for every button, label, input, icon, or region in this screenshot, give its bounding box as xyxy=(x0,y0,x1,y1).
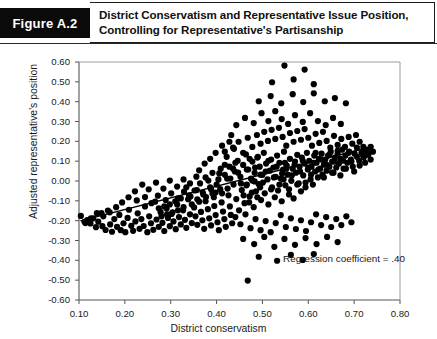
scatter-points xyxy=(78,62,376,283)
x-tick-label: 0.40 xyxy=(197,308,237,319)
page-title: District Conservatism and Representative… xyxy=(90,8,434,37)
figure-header: Figure A.2 District Conservatism and Rep… xyxy=(0,2,437,44)
y-tick-label: -0.30 xyxy=(30,235,70,246)
x-tick-label: 0.30 xyxy=(151,308,191,319)
y-tick-label: -0.50 xyxy=(30,274,70,285)
figure-title-box: District Conservatism and Representative… xyxy=(90,2,435,43)
y-tick-label: -0.10 xyxy=(30,195,70,206)
regression-annotation: Regression coefficient = .40 xyxy=(283,253,405,264)
y-tick-label: 0.00 xyxy=(30,175,70,186)
x-tick-label: 0.20 xyxy=(105,308,145,319)
x-tick-label: 0.70 xyxy=(334,308,374,319)
figure-number-badge: Figure A.2 xyxy=(0,8,90,38)
y-tick-label: 0.50 xyxy=(30,76,70,87)
y-tick-label: 0.20 xyxy=(30,135,70,146)
y-tick-label: 0.30 xyxy=(30,116,70,127)
y-tick-label: 0.60 xyxy=(30,56,70,67)
x-tick-label: 0.60 xyxy=(288,308,328,319)
x-tick-label: 0.50 xyxy=(242,308,282,319)
x-tick-label: 0.10 xyxy=(59,308,99,319)
y-tick-label: -0.40 xyxy=(30,254,70,265)
chart-container: Adjusted representative's position Distr… xyxy=(0,44,437,339)
y-tick-label: -0.20 xyxy=(30,215,70,226)
y-tick-label: 0.40 xyxy=(30,96,70,107)
y-tick-label: -0.60 xyxy=(30,294,70,305)
y-tick-label: 0.10 xyxy=(30,155,70,166)
figure-page: Figure A.2 District Conservatism and Rep… xyxy=(0,0,437,339)
x-tick-label: 0.80 xyxy=(380,308,420,319)
